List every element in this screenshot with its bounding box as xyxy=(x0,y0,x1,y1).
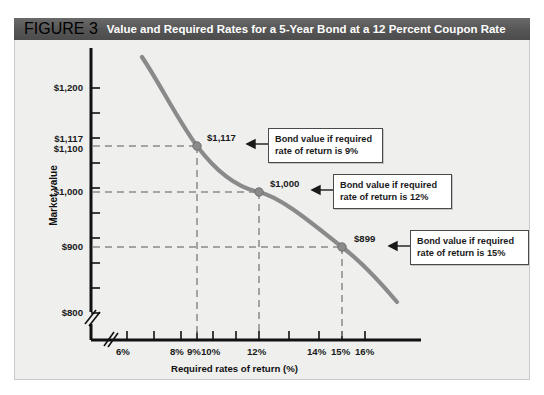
figure-title: Value and Required Rates for a 5-Year Bo… xyxy=(107,23,506,35)
y-axis-break-mark-2 xyxy=(89,312,100,326)
callout-15pct-line2: rate of return is 15% xyxy=(417,247,522,259)
callout-9pct-line2: rate of return is 9% xyxy=(275,145,376,157)
x-tick-label-8pct: 8% xyxy=(170,346,184,357)
x-tick-label-15pct: 15% xyxy=(331,346,350,357)
chart-plot-area: Market value $1,200 $1,117 $1,100 $1,000… xyxy=(14,40,530,380)
callout-arrow-15pct xyxy=(389,242,410,250)
callout-arrow-9pct xyxy=(247,140,268,148)
figure-card: FIGURE 3 Value and Required Rates for a … xyxy=(0,0,544,395)
figure-header-bar: FIGURE 3 Value and Required Rates for a … xyxy=(14,18,530,40)
callout-12pct: Bond value if required rate of return is… xyxy=(333,174,452,209)
x-tick-label-6pct: 6% xyxy=(116,346,130,357)
x-tick-label-12pct: 12% xyxy=(247,346,266,357)
y-tick-label-1000: $1,000 xyxy=(25,186,83,197)
callout-12pct-line1: Bond value if required xyxy=(340,179,445,191)
x-tick-label-10pct: 10% xyxy=(201,346,220,357)
guide-lines-9pct xyxy=(93,146,197,336)
callout-arrow-12pct xyxy=(312,186,333,194)
guide-lines-15pct xyxy=(93,247,342,336)
callout-9pct-line1: Bond value if required xyxy=(275,133,376,145)
x-tick-label-16pct: 16% xyxy=(355,346,374,357)
data-point-15pct xyxy=(338,243,346,251)
guide-lines-12pct xyxy=(93,192,259,336)
data-point-9pct xyxy=(193,142,201,150)
data-label-899: $899 xyxy=(354,233,375,244)
data-label-1117: $1,117 xyxy=(207,132,236,143)
figure-number: FIGURE 3 xyxy=(24,20,98,38)
data-label-1000: $1,000 xyxy=(270,178,299,189)
data-point-12pct xyxy=(255,188,263,196)
x-tick-label-14pct: 14% xyxy=(307,346,326,357)
callout-15pct-line1: Bond value if required xyxy=(417,235,522,247)
y-tick-label-900: $900 xyxy=(25,241,83,252)
x-axis-title: Required rates of return (%) xyxy=(171,363,298,374)
y-tick-label-1200: $1,200 xyxy=(25,82,83,93)
chart-canvas xyxy=(15,40,530,380)
y-axis-break-mark-1 xyxy=(85,310,96,324)
callout-9pct: Bond value if required rate of return is… xyxy=(268,128,383,163)
y-tick-label-800: $800 xyxy=(25,307,83,318)
callout-12pct-line2: rate of return is 12% xyxy=(340,191,445,203)
y-tick-label-1100: $1,100 xyxy=(25,143,83,154)
x-tick-label-9pct: 9% xyxy=(187,346,201,357)
callout-15pct: Bond value if required rate of return is… xyxy=(410,230,529,265)
